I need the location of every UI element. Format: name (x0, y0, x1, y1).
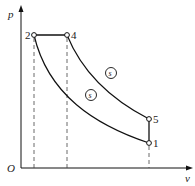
point-1 (147, 141, 152, 146)
origin-label: O (7, 162, 15, 174)
x-axis-arrow-icon (186, 166, 193, 171)
point-4 (65, 33, 70, 38)
pv-diagram: p v O 2 4 5 1 s s (0, 0, 195, 186)
point-2 (32, 33, 37, 38)
y-axis-label: p (7, 8, 14, 20)
point-4-label: 4 (71, 29, 77, 41)
point-2-label: 2 (25, 29, 31, 41)
process-label-upper: s (109, 69, 112, 78)
y-axis-arrow-icon (19, 5, 24, 12)
point-5 (147, 117, 152, 122)
point-1-label: 1 (153, 137, 159, 149)
x-axis-label: v (185, 172, 190, 184)
isentrope-1-2 (34, 35, 149, 143)
point-5-label: 5 (153, 113, 159, 125)
process-label-lower: s (89, 91, 92, 100)
